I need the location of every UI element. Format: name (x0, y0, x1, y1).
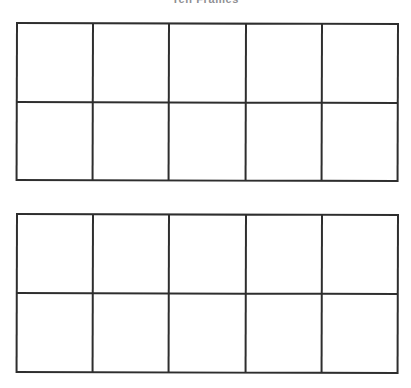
ten-frame-1-cell-6[interactable] (18, 103, 92, 180)
ten-frame-1-cell-2[interactable] (94, 24, 168, 101)
ten-frame-1-cell-7[interactable] (94, 103, 168, 180)
ten-frame-2 (16, 213, 399, 374)
ten-frame-2-cell-9[interactable] (246, 295, 320, 372)
ten-frame-2-cell-4[interactable] (246, 216, 320, 293)
ten-frame-2-cell-2[interactable] (94, 215, 168, 292)
ten-frame-2-cell-1[interactable] (18, 215, 92, 292)
ten-frame-1-cell-1[interactable] (18, 24, 92, 101)
ten-frame-1-cell-4[interactable] (246, 25, 320, 102)
ten-frame-1-cell-9[interactable] (246, 103, 320, 180)
ten-frame-2-cell-7[interactable] (94, 294, 168, 371)
ten-frame-2-cell-3[interactable] (170, 215, 244, 292)
ten-frame-2-cell-8[interactable] (170, 294, 244, 371)
page-title: Ten Frames (0, 0, 411, 5)
ten-frame-2-cell-6[interactable] (18, 294, 92, 371)
page-title-clip: Ten Frames (0, 0, 411, 6)
ten-frame-2-cell-5[interactable] (323, 216, 397, 293)
ten-frame-1-cell-5[interactable] (323, 25, 397, 102)
ten-frame-1-cell-3[interactable] (170, 24, 244, 101)
ten-frame-1-cell-8[interactable] (170, 103, 244, 180)
worksheet-page: Ten Frames (0, 0, 411, 388)
ten-frame-2-cell-10[interactable] (322, 295, 396, 372)
ten-frame-1-cell-10[interactable] (322, 103, 396, 180)
ten-frame-1 (16, 22, 399, 182)
